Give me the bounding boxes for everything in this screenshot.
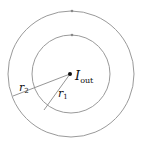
concentric-circles-diagram: Iout r2 r1 (0, 0, 143, 149)
outer-circle-marker (71, 10, 74, 13)
r2-subscript: 2 (24, 87, 28, 95)
wire-dot (68, 72, 72, 76)
r1-subscript: 1 (63, 93, 67, 101)
current-label: Iout (74, 68, 94, 85)
r1-label: r1 (58, 87, 68, 101)
r2-label: r2 (19, 81, 29, 95)
inner-circle-marker (71, 34, 74, 37)
current-subscript: out (80, 76, 94, 85)
